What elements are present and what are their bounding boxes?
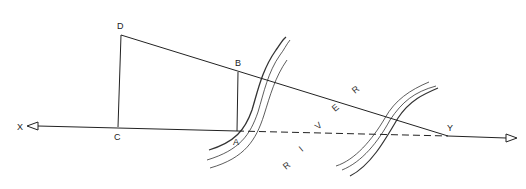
river-letter-i: I [297, 144, 305, 153]
line-d-to-c [118, 35, 121, 127]
dashed-line-a-to-y [237, 131, 448, 136]
river-letter-r1: R [281, 159, 293, 171]
line-y-to-right [448, 136, 506, 138]
arrow-right-icon [506, 134, 517, 142]
label-a: A [233, 137, 239, 147]
river-bank-right [336, 82, 438, 176]
river-bank-left [207, 37, 290, 168]
arrow-left-icon [27, 122, 38, 130]
line-d-to-y [121, 35, 448, 136]
baseline-x-to-a [38, 126, 237, 131]
line-b-to-a [237, 72, 238, 131]
river-width-diagram: X D C B A Y R I V E R [0, 0, 526, 189]
label-x: X [17, 122, 23, 132]
label-b: B [235, 58, 241, 68]
river-letter-e: E [330, 102, 341, 114]
label-y: Y [447, 123, 453, 133]
river-letter-r2: R [350, 83, 362, 95]
label-d: D [117, 21, 124, 31]
river-letter-v: V [313, 120, 324, 132]
label-c: C [114, 132, 121, 142]
